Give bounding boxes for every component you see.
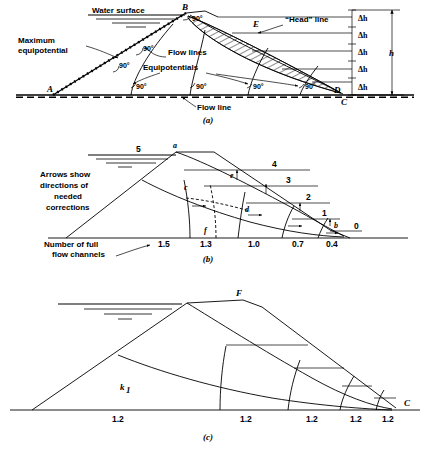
panel-b-channel-value-2: 1.3 — [200, 239, 212, 249]
equipotentials-label: Equipotentials — [143, 63, 199, 72]
panel-b-number-0: 0 — [354, 221, 359, 231]
panel-b-channel-value-3: 1.0 — [248, 239, 260, 249]
panel-c-channel-value-1: 1.2 — [112, 414, 124, 424]
delta-h-label-4: Δh — [358, 65, 368, 74]
panel-b-channel-value-5: 0.4 — [326, 239, 338, 249]
angle-label-a2: 90° — [143, 45, 154, 52]
panel-c-point-c: C — [404, 398, 411, 408]
panel-b-point-f: f — [204, 226, 208, 235]
max-equipotential-leader — [86, 46, 118, 58]
angle-label-a7: 90° — [305, 83, 316, 90]
panel-b-equipotential-2 — [238, 192, 245, 238]
panel-b: 5 4 3 2 1 0 a b c d e f 1.5 1.3 1.0 0.7 … — [40, 141, 408, 264]
panel-b-channel-value-4: 0.7 — [292, 239, 304, 249]
maximum-equipotential-label-line2: equipotential — [18, 46, 68, 55]
maximum-equipotential-label-line1: Maximum — [18, 36, 55, 45]
panel-b-channels-leader — [116, 245, 150, 256]
panel-b-point-d: d — [245, 205, 250, 214]
point-label-b: B — [181, 2, 188, 12]
panel-b-number-3: 3 — [286, 175, 291, 185]
flow-line-leader — [182, 97, 196, 107]
panel-c-permeability-label: k — [120, 382, 125, 392]
flow-lines-label: Flow lines — [168, 48, 207, 57]
panel-b-channel-value-1: 1.5 — [158, 239, 170, 249]
panel-b-note-line4: corrections — [46, 203, 90, 212]
delta-h-label-5: Δh — [358, 83, 368, 92]
point-label-d: D — [333, 85, 341, 95]
panel-b-top-flow-line — [176, 152, 344, 236]
point-label-a: A — [46, 84, 53, 94]
panel-c-top-flow-line — [187, 303, 392, 409]
head-line-leader — [258, 25, 283, 33]
delta-h-label-1: Δh — [358, 14, 368, 23]
delta-h-label-3: Δh — [358, 48, 368, 57]
panel-b-number-4: 4 — [272, 159, 277, 169]
panel-c-channel-value-3: 1.2 — [306, 414, 318, 424]
panel-b-point-c: c — [184, 183, 188, 192]
panel-c-lower-flow-line — [118, 355, 392, 410]
panel-b-point-b: b — [334, 221, 338, 230]
point-label-c: C — [341, 97, 348, 107]
angle-label-a3: 90° — [119, 62, 130, 69]
total-head-label: h — [389, 48, 394, 58]
panel-b-note-line1: Arrows show — [40, 170, 91, 179]
caption-c: (c) — [203, 432, 213, 442]
panel-b-number-2: 2 — [306, 192, 311, 202]
delta-h-label-2: Δh — [358, 31, 368, 40]
water-surface-label: Water surface — [92, 6, 145, 15]
point-label-e: E — [252, 19, 259, 29]
panel-c-permeability-subscript: 1 — [126, 385, 131, 395]
head-line-label: “Head” line — [285, 15, 329, 24]
caption-b: (b) — [203, 254, 214, 264]
panel-c-channel-value-5: 1.2 — [382, 414, 394, 424]
panel-b-equipotential-3 — [282, 206, 294, 238]
panel-c-equipotential-1 — [220, 346, 226, 410]
panel-b-point-e: e — [230, 171, 234, 180]
angle-label-a4: 90° — [136, 83, 147, 90]
panel-c: F C k 1 1.2 1.2 1.2 1.2 1.2 (c) — [10, 288, 420, 442]
panel-b-flow-line-2 — [142, 180, 344, 237]
panel-c-dam-outline — [32, 300, 396, 410]
flow-net-figure: Δh Δh Δh Δh Δh h A B C D E Water surface… — [0, 0, 430, 450]
panel-b-channels-note-line1: Number of full — [44, 240, 98, 249]
panel-c-channel-value-2: 1.2 — [240, 414, 252, 424]
panel-b-number-1: 1 — [322, 208, 327, 218]
panel-b-note-line2: directions of — [40, 181, 88, 190]
panel-b-note-line3: needed — [54, 192, 82, 201]
angle-label-a6: 90° — [253, 83, 264, 90]
angle-label-a1: 90° — [192, 15, 203, 22]
caption-a: (a) — [203, 115, 214, 125]
upstream-face-ab — [53, 13, 186, 95]
equipotentials-leader-mid — [206, 73, 248, 84]
panel-b-point-a: a — [173, 141, 177, 150]
panel-c-point-f: F — [235, 288, 242, 298]
panel-c-channel-value-4: 1.2 — [350, 414, 362, 424]
flow-line-label: Flow line — [197, 103, 232, 112]
panel-a: Δh Δh Δh Δh Δh h A B C D E Water surface… — [16, 2, 414, 125]
panel-b-channels-note-line2: flow channels — [52, 250, 105, 259]
panel-b-number-5: 5 — [136, 144, 141, 154]
angle-label-a5: 90° — [196, 83, 207, 90]
